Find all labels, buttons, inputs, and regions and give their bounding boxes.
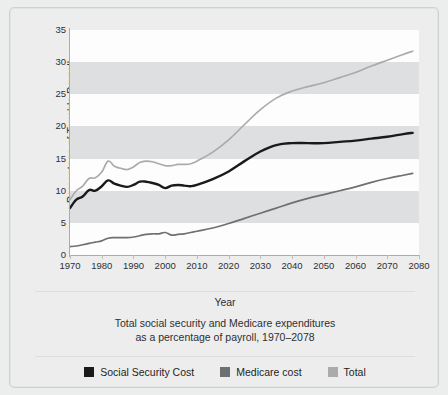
plot-area [70, 30, 419, 255]
chart-legend: Social Security CostMedicare costTotal [10, 366, 440, 378]
x-tick-mark [229, 255, 230, 259]
y-tick-label: 25 [32, 89, 66, 99]
legend-item[interactable]: Medicare cost [220, 366, 301, 378]
legend-label: Social Security Cost [100, 366, 194, 378]
caption-line-1: Total social security and Medicare expen… [10, 316, 440, 330]
x-tick-mark [197, 255, 198, 259]
series-line-medicare-cost [70, 173, 413, 246]
legend-swatch-icon [328, 367, 338, 377]
chart-caption: Total social security and Medicare expen… [10, 316, 440, 344]
divider-top [35, 291, 415, 292]
legend-swatch-icon [220, 367, 230, 377]
y-tick-label: 10 [32, 186, 66, 196]
legend-swatch-icon [84, 367, 94, 377]
legend-item[interactable]: Total [328, 366, 366, 378]
legend-label: Total [344, 366, 366, 378]
y-axis-line [69, 28, 70, 257]
x-tick-mark [70, 255, 71, 259]
legend-label: Medicare cost [236, 366, 301, 378]
x-tick-mark [387, 255, 388, 259]
x-tick-mark [419, 255, 420, 259]
legend-item[interactable]: Social Security Cost [84, 366, 194, 378]
x-tick-mark [260, 255, 261, 259]
y-tick-label: 20 [32, 121, 66, 131]
x-tick-label: 2080 [399, 260, 439, 271]
x-tick-mark [356, 255, 357, 259]
x-axis-line [69, 255, 420, 256]
series-lines [70, 30, 419, 255]
y-tick-label: 30 [32, 57, 66, 67]
x-tick-mark [324, 255, 325, 259]
chart-figure: Percentage of Taxable Payroll 3530252015… [0, 0, 448, 395]
x-tick-mark [102, 255, 103, 259]
x-axis-title: Year [10, 296, 440, 308]
y-tick-label: 35 [32, 25, 66, 35]
x-tick-mark [165, 255, 166, 259]
series-line-social-security-cost [70, 133, 413, 208]
y-tick-label: 15 [32, 154, 66, 164]
y-axis-title-container: Percentage of Taxable Payroll [24, 38, 40, 248]
x-tick-mark [133, 255, 134, 259]
x-tick-mark [292, 255, 293, 259]
chart-card: Percentage of Taxable Payroll 3530252015… [9, 7, 439, 388]
series-line-total [70, 51, 413, 200]
divider-bottom [35, 356, 415, 357]
caption-line-2: as a percentage of payroll, 1970–2078 [10, 330, 440, 344]
y-tick-label: 5 [32, 218, 66, 228]
y-tick-label: 0 [32, 250, 66, 260]
